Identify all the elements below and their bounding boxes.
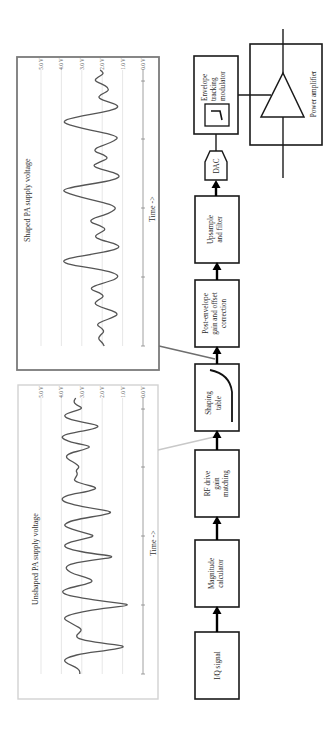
block-dac: DAC [205, 151, 227, 180]
block-shaping-table: Shaping table [195, 364, 239, 431]
arrow-shaping-to-post [213, 346, 222, 364]
block-upsample-label-2: and filter [216, 216, 224, 243]
shaped-chart-title: Shaped PA supply voltage [23, 158, 32, 242]
block-upsample-filter: Upsample and filter [195, 196, 239, 263]
block-magnitude-label-2: calculator [217, 559, 225, 588]
block-iq-signal: I/Q signal [195, 632, 239, 699]
block-rf-label-1: RF drive [204, 471, 212, 496]
unshaped-y-tick-label: 1.0 V [120, 386, 126, 398]
unshaped-y-tick-label: 5.0 V [38, 386, 44, 398]
block-post-label-1: Post-envelope [202, 293, 210, 334]
block-shaping-label-1: Shaping [205, 391, 213, 415]
arrow-post-to-upsample [213, 262, 222, 280]
block-post-label-2: gain and offset [211, 292, 219, 335]
unshaped-y-tick-label: 0.0 V [140, 386, 146, 398]
shaped-y-tick-label: 0.0 V [140, 58, 146, 70]
shaped-y-tick-label: 5.0 V [38, 58, 44, 70]
unshaped-chart-x-label: Time -> [149, 530, 158, 556]
unshaped-y-tick-label: 4.0 V [58, 386, 64, 398]
block-pa-label: Power amplifier [310, 70, 318, 117]
shaped-y-tick-label: 2.0 V [99, 58, 105, 70]
unshaped-y-tick-label: 2.0 V [99, 386, 105, 398]
unshaped-chart-title: Unshaped PA supply voltage [31, 513, 40, 605]
arrow-upsample-to-dac [212, 180, 221, 196]
block-envelope-tracking-modulator: Envelope tracking modulator [194, 56, 238, 134]
unshaped-y-tick-label: 3.0 V [79, 386, 85, 398]
block-rf-drive-gain-matching: RF drive gain matching [195, 450, 239, 517]
unshaped-callout-line [158, 437, 214, 450]
block-upsample-label-1: Upsample [207, 215, 215, 244]
block-magnitude-calculator: Magnitude calculator [195, 540, 239, 607]
shaped-chart-x-label: Time -> [148, 196, 157, 222]
shaped-y-tick-label: 1.0 V [120, 58, 126, 70]
shaped-callout-line [159, 346, 215, 359]
etm-transfer-icon [205, 104, 229, 126]
block-power-amplifier: Power amplifier [250, 29, 322, 178]
block-dac-label: DAC [213, 158, 221, 173]
arrow-magnitude-to-rf [213, 516, 222, 540]
shaped-chart: 0.0 V1.0 V2.0 V3.0 V4.0 V5.0 V Shaped PA… [17, 57, 159, 370]
block-rf-label-3: matching [222, 470, 230, 497]
arrow-iq-to-magnitude [213, 606, 222, 632]
shaped-y-tick-label: 4.0 V [58, 58, 64, 70]
block-etm-label-3: modulator [219, 71, 227, 101]
arrow-rf-to-shaping [213, 430, 222, 450]
block-magnitude-label-1: Magnitude [208, 558, 216, 589]
envelope-tracking-diagram: 0.0 V1.0 V2.0 V3.0 V4.0 V5.0 V Shaped PA… [0, 0, 326, 753]
block-iq-label: I/Q signal [214, 651, 222, 680]
block-post-envelope-correction: Post-envelope gain and offset correction [195, 280, 239, 347]
shaped-chart-frame [17, 57, 159, 370]
block-etm-label-2: tracking [210, 77, 218, 101]
shaped-y-tick-label: 3.0 V [79, 58, 85, 70]
block-etm-label-1: Envelope [201, 74, 209, 101]
block-post-label-3: correction [220, 299, 228, 329]
block-rf-label-2: gain [213, 477, 221, 490]
block-shaping-label-2: table [215, 396, 223, 410]
unshaped-chart: 0.0 V1.0 V2.0 V3.0 V4.0 V5.0 V Unshaped … [18, 385, 158, 699]
